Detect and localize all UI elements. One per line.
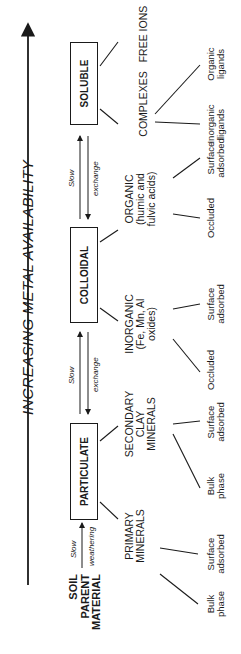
weathering-speed-label: Slow (70, 541, 78, 558)
phase-label: SOLUBLE (79, 60, 90, 108)
category-inorganic: INORGANIC (Fe, Mn, Al oxides) (124, 279, 157, 369)
phase-box-particulate: PARTICULATE (70, 423, 98, 520)
sub-inorganic-occluded: Occluded (206, 346, 216, 394)
sub-inorganic-ligands: Inorganic ligands (206, 100, 226, 148)
phase-label: PARTICULATE (79, 437, 90, 506)
exchange-speed-label-2: Slow (68, 170, 76, 187)
phase-box-colloidal: COLLOIDAL (70, 227, 98, 323)
category-secondary-clay-minerals: SECONDARY CLAY MINERALS (124, 379, 157, 469)
sub-primary-bulk: Bulk phase (206, 582, 226, 626)
weathering-label: weathering (88, 527, 96, 566)
exchange-label-1: exchange (92, 357, 100, 392)
phase-box-soluble: SOLUBLE (70, 42, 98, 125)
phase-label: COLLOIDAL (79, 246, 90, 304)
sub-primary-surface: Surface adsorbed (206, 530, 226, 578)
diagram-canvas: INCREASING METAL AVAILABILITY SOIL PAREN… (0, 0, 241, 654)
sub-organic-ligands: Organic ligands (206, 40, 226, 88)
exchange-speed-label-1: Slow (68, 367, 76, 384)
sub-secondary-surface: Surface adsorbed (206, 398, 226, 446)
category-organic: ORGANIC (humic and fulvic acids) (124, 154, 157, 244)
diagram-title: INCREASING METAL AVAILABILITY (20, 160, 35, 415)
source-label: SOIL PARENT MATERIAL (68, 574, 103, 640)
sub-organic-occluded: Occluded (206, 194, 216, 242)
category-complexes: COMPLEXES (138, 64, 149, 144)
sub-inorganic-surface: Surface adsorbed (206, 280, 226, 328)
sub-secondary-bulk: Bulk phase (206, 464, 226, 508)
category-primary-minerals: PRIMARY MINERALS (124, 496, 146, 576)
exchange-label-2: exchange (92, 161, 100, 196)
category-free-ions: FREE IONS (138, 0, 149, 69)
